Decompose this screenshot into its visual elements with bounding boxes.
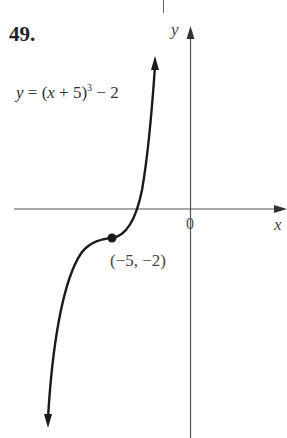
y-axis-arrow-icon [187, 26, 195, 39]
eq-part: + 5) [55, 83, 87, 102]
eq-part: − 2 [92, 83, 119, 102]
eq-lhs: y [16, 83, 24, 102]
eq-part: = ( [24, 83, 48, 102]
origin-label: 0 [186, 215, 194, 233]
y-axis-label: y [171, 20, 179, 40]
x-axis-arrow-icon [274, 205, 287, 213]
cubic-curve [48, 66, 155, 418]
inflection-point [108, 234, 117, 243]
graph [0, 0, 287, 438]
equation-label: y = (x + 5)3 − 2 [16, 82, 119, 103]
curve-up-arrow-icon [151, 56, 159, 70]
point-label: (−5, −2) [110, 251, 166, 271]
curve-down-arrow-icon [44, 414, 52, 428]
x-axis-label: x [274, 215, 282, 235]
eq-var: x [47, 83, 55, 102]
